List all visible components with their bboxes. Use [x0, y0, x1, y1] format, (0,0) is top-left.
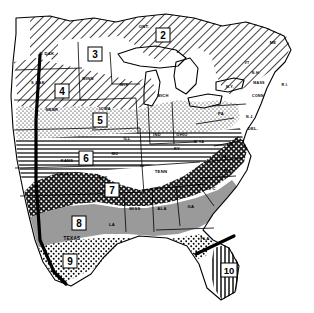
state-label-ALA: ALA [157, 206, 167, 211]
state-label-N-DAK: N DAK [40, 51, 55, 56]
state-label-ONT: ONT. [139, 24, 150, 29]
state-label-KANS: KANS [61, 158, 74, 163]
state-label-RI: R.I. [282, 83, 289, 87]
state-label-MO: MO [111, 151, 118, 156]
zone-number-10: 10 [224, 265, 235, 276]
zone-marker-8[interactable]: 8 [72, 216, 86, 230]
state-label-S-C: S C [208, 186, 216, 191]
zone-number-9: 9 [67, 256, 73, 267]
state-label-ILL: ILL [124, 136, 131, 141]
state-label-VT: VT [244, 61, 250, 65]
zone-marker-10[interactable]: 10 [221, 263, 237, 277]
zone-number-4: 4 [59, 86, 65, 97]
state-label-DEL: DEL. [248, 126, 258, 131]
zone-number-3: 3 [92, 49, 98, 60]
zone-marker-4[interactable]: 4 [55, 84, 69, 98]
zone-marker-7[interactable]: 7 [105, 183, 119, 197]
state-label-ARK: ARK [98, 175, 108, 180]
state-label-IND: IND [153, 132, 161, 137]
zone-number-5: 5 [97, 115, 103, 126]
state-label-MINN: MINN [82, 76, 93, 81]
map-canvas: ONT. N DAK MINN S DAK WIS MICH NEBR IOWA… [0, 0, 314, 313]
state-label-GA: GA [188, 204, 195, 209]
state-label-MISS: MISS [129, 206, 140, 211]
state-label-PA: PA [218, 111, 224, 116]
state-label-NY: N.Y. [226, 85, 234, 89]
zone-number-6: 6 [83, 153, 89, 164]
state-label-OKLA: OKLA [57, 171, 70, 176]
state-label-FLA: FLA [200, 236, 209, 241]
state-label-WIS: WIS [120, 82, 128, 87]
state-label-CONN: CONN [252, 94, 264, 98]
zone-marker-6[interactable]: 6 [79, 151, 93, 165]
zone-number-8: 8 [76, 218, 82, 229]
state-label-NJ: N.J. [246, 115, 254, 119]
state-label-W-VA: W.VA [194, 140, 205, 144]
zone-marker-3[interactable]: 3 [88, 47, 102, 61]
state-label-NH: N.H. [252, 71, 260, 75]
state-label-OHIO: OHIO [176, 132, 187, 137]
state-label-LA: LA [109, 222, 115, 227]
zone-number-7: 7 [109, 185, 115, 196]
zone-map-figure: ONT. N DAK MINN S DAK WIS MICH NEBR IOWA… [0, 0, 314, 313]
state-label-N-C: N C [224, 168, 232, 173]
state-label-MICH: MICH [157, 93, 168, 98]
zone-marker-2[interactable]: 2 [156, 28, 170, 42]
zone-marker-9[interactable]: 9 [63, 254, 77, 268]
state-label-MD: MD. [227, 143, 235, 147]
state-label-TENN: TENN [155, 169, 168, 174]
zone-marker-5[interactable]: 5 [93, 113, 107, 127]
state-label-IOWA: IOWA [99, 106, 111, 111]
state-label-ME: ME [270, 40, 277, 45]
state-label-VA: VA [221, 154, 227, 159]
state-label-MASS: MASS [253, 81, 265, 85]
zone-fills [14, 6, 314, 300]
state-label-TEXAS: TEXAS [64, 236, 81, 241]
lake-huron [174, 58, 198, 94]
zone-number-2: 2 [160, 30, 166, 41]
state-label-KY: KY [174, 146, 180, 151]
state-label-NEBR: NEBR [46, 107, 59, 112]
state-label-S-DAK: S DAK [31, 80, 45, 85]
